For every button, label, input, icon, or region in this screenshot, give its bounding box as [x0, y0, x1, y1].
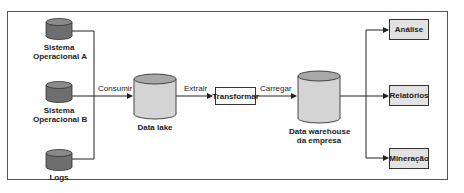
- data-warehouse-cylinder-icon: [298, 71, 340, 123]
- edge-label-load: Carregar: [260, 84, 292, 93]
- warehouse-line2: da empresa: [289, 136, 349, 145]
- source-cylinder-logs-icon: [46, 150, 72, 171]
- source-b-line2: Operacional B: [33, 115, 85, 124]
- source-b-line1: Sistema: [33, 106, 85, 115]
- data-lake-label: Data lake: [130, 123, 180, 132]
- edge-label-consume: Consumir: [98, 84, 132, 93]
- transform-box: Transformar: [215, 87, 256, 105]
- data-lake-cylinder-icon: [134, 74, 176, 119]
- output-box-analysis: Análise: [389, 19, 429, 40]
- output-label-mining: Mineração: [389, 154, 429, 163]
- output-label-analysis: Análise: [395, 25, 423, 34]
- output-box-mining: Mineração: [389, 148, 429, 169]
- warehouse-label: Data warehouse da empresa: [289, 127, 349, 145]
- warehouse-line1: Data warehouse: [289, 127, 349, 136]
- source-a-line1: Sistema: [33, 43, 85, 52]
- edge-label-extract: Extrair: [184, 84, 207, 93]
- source-cylinder-a-icon: [46, 19, 72, 40]
- source-a-line2: Operacional A: [33, 52, 85, 61]
- source-label-logs: Logs: [33, 173, 85, 182]
- source-label-a: Sistema Operacional A: [33, 43, 85, 61]
- source-label-b: Sistema Operacional B: [33, 106, 85, 124]
- transform-label: Transformar: [212, 92, 259, 101]
- source-cylinder-b-icon: [46, 82, 72, 103]
- output-label-reports: Relatórios: [389, 91, 428, 100]
- logs-line1: Logs: [33, 173, 85, 182]
- output-box-reports: Relatórios: [389, 85, 429, 106]
